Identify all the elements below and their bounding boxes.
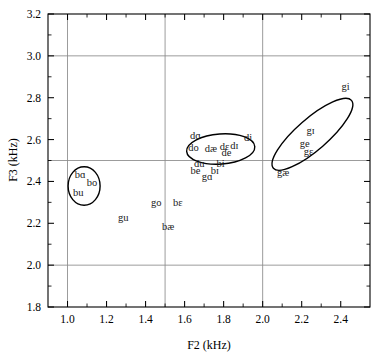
x-tick-label: 1.0 xyxy=(60,313,75,325)
y-tick-label: 2.6 xyxy=(27,134,42,146)
point-label: gɪ xyxy=(306,125,314,136)
x-tick-label: 1.2 xyxy=(99,313,114,325)
y-tick-label: 2.8 xyxy=(27,92,42,104)
point-label: dæ xyxy=(205,143,217,154)
point-label: do xyxy=(188,142,199,153)
gridlines xyxy=(48,14,370,307)
x-tick-label: 1.4 xyxy=(138,313,153,325)
y-tick-label: 2.4 xyxy=(27,175,42,187)
point-label: gu xyxy=(118,212,129,223)
x-tick-label: 2.4 xyxy=(334,313,349,325)
point-label: di xyxy=(244,132,252,143)
x-tick-label: 2.2 xyxy=(295,313,310,325)
point-label: gɑ xyxy=(202,171,213,182)
point-label: gæ xyxy=(277,167,289,178)
y-tick-label: 3.0 xyxy=(27,50,42,62)
point-label: bo xyxy=(87,177,98,188)
chart-figure: bɑbobugugobɛbædɑdodædɛdɪdedidubibebɪgɑgi… xyxy=(0,0,380,360)
point-label: bɑ xyxy=(75,169,86,180)
x-axis-tick-labels: 1.01.21.41.61.82.02.22.4 xyxy=(60,313,348,325)
y-tick-label: 3.2 xyxy=(27,8,42,20)
x-tick-label: 2.0 xyxy=(255,313,270,325)
x-tick-label: 1.6 xyxy=(177,313,192,325)
point-label: bæ xyxy=(162,221,174,232)
data-point-labels: bɑbobugugobɛbædɑdodædɛdɪdedidubibebɪgɑgi… xyxy=(73,81,350,232)
point-label: bu xyxy=(73,187,84,198)
x-tick-label: 1.8 xyxy=(216,313,231,325)
y-tick-label: 1.8 xyxy=(27,301,42,313)
point-label: bɛ xyxy=(173,197,183,208)
scatter-plot-svg: bɑbobugugobɛbædɑdodædɛdɪdedidubibebɪgɑgi… xyxy=(0,0,380,360)
point-label: de xyxy=(222,147,232,158)
point-label: dɑ xyxy=(190,130,201,141)
point-label: go xyxy=(151,197,162,208)
y-tick-label: 2.2 xyxy=(27,217,42,229)
point-label: gɛ xyxy=(304,146,314,157)
x-axis-title: F2 (kHz) xyxy=(187,338,231,352)
y-axis-tick-labels: 1.82.02.22.42.62.83.03.2 xyxy=(27,8,42,313)
point-label: gi xyxy=(342,81,350,92)
y-axis-title: F3 (kHz) xyxy=(6,138,20,182)
point-label: be xyxy=(190,165,200,176)
y-tick-label: 2.0 xyxy=(27,259,42,271)
